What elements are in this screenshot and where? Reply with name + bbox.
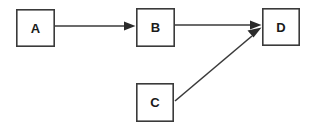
- node-d-label: D: [276, 20, 285, 35]
- edge-c-to-d-line: [175, 36, 252, 101]
- edge-a-to-b: [55, 22, 136, 31]
- flowchart-canvas: A B C D: [0, 0, 313, 133]
- node-a[interactable]: A: [17, 10, 54, 46]
- edge-c-to-d-arrowhead: [248, 28, 262, 38]
- node-b[interactable]: B: [137, 9, 174, 46]
- node-a-label: A: [31, 21, 41, 36]
- edge-a-to-b-arrowhead: [124, 22, 136, 31]
- node-d[interactable]: D: [263, 9, 299, 45]
- edge-c-to-d: [175, 28, 262, 102]
- node-c-label: C: [150, 95, 160, 110]
- edge-b-to-d: [175, 21, 262, 30]
- node-b-label: B: [151, 20, 160, 35]
- flowchart-svg: A B C D: [0, 0, 313, 133]
- node-c[interactable]: C: [137, 84, 173, 121]
